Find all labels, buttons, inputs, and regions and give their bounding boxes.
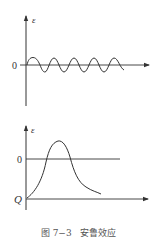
figure-canvas: ε 0 ε 0 Q	[0, 0, 157, 249]
bottom-chart: ε 0 Q	[14, 125, 148, 210]
bottom-pulse-curve	[27, 141, 101, 198]
top-y-axis-label: ε	[32, 15, 36, 25]
figure-caption: 图 7−3 安鲁效应	[0, 226, 157, 239]
bottom-y-axis-label: ε	[31, 125, 35, 135]
bottom-zero-label: 0	[17, 154, 22, 165]
bottom-q-label: Q	[14, 193, 22, 205]
top-zero-label: 0	[12, 60, 17, 71]
top-chart: ε 0	[12, 15, 149, 106]
